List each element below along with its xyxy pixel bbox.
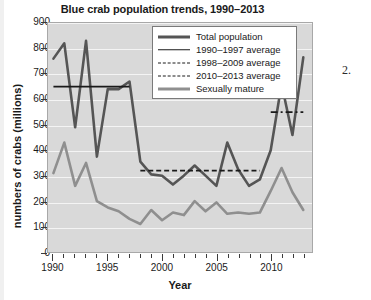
x-tick-mark xyxy=(271,254,272,261)
x-tick-mark xyxy=(206,254,207,258)
x-tick-label: 2005 xyxy=(197,262,237,273)
x-tick-mark xyxy=(151,254,152,258)
x-tick-mark xyxy=(228,254,229,258)
chart-title: Blue crab population trends, 1990–2013 xyxy=(0,3,325,15)
legend-label: Total population xyxy=(196,31,263,42)
x-axis-title: Year xyxy=(47,279,313,291)
x-tick-mark xyxy=(162,254,163,261)
legend-item[interactable]: 1998–2009 average xyxy=(157,56,292,69)
x-tick-mark xyxy=(293,254,294,258)
page-edge-strip xyxy=(0,0,4,300)
legend-item[interactable]: 2010–2013 average xyxy=(157,69,292,82)
x-tick-mark xyxy=(96,254,97,258)
x-tick-mark xyxy=(282,254,283,258)
legend-swatch-icon xyxy=(157,70,191,82)
legend-swatch-icon xyxy=(157,83,191,95)
legend-label: Sexually mature xyxy=(196,83,264,94)
chart-legend: Total population1990–1997 average1998–20… xyxy=(152,26,297,99)
x-tick-mark xyxy=(173,254,174,258)
x-tick-mark xyxy=(304,254,305,258)
x-tick-mark xyxy=(217,254,218,261)
x-tick-mark xyxy=(74,254,75,258)
x-tick-label: 1990 xyxy=(32,262,72,273)
x-tick-mark xyxy=(107,254,108,261)
legend-label: 1998–2009 average xyxy=(196,57,281,68)
x-tick-mark xyxy=(85,254,86,258)
legend-item[interactable]: 1990–1997 average xyxy=(157,43,292,56)
x-tick-label: 2010 xyxy=(251,262,291,273)
x-tick-mark xyxy=(140,254,141,258)
y-axis-title: numbers of crabs (millions) xyxy=(11,46,23,266)
series-line xyxy=(53,143,303,224)
x-tick-mark xyxy=(52,254,53,261)
margin-annotation: 2. xyxy=(342,63,351,78)
legend-item[interactable]: Total population xyxy=(157,30,292,43)
legend-swatch-icon xyxy=(157,31,191,43)
legend-label: 1990–1997 average xyxy=(196,44,281,55)
x-tick-mark xyxy=(250,254,251,258)
x-tick-mark xyxy=(260,254,261,258)
x-tick-label: 2000 xyxy=(142,262,182,273)
legend-label: 2010–2013 average xyxy=(196,70,281,81)
x-tick-mark xyxy=(184,254,185,258)
x-tick-label: 1995 xyxy=(87,262,127,273)
x-tick-mark xyxy=(118,254,119,258)
x-tick-mark xyxy=(195,254,196,258)
x-tick-mark xyxy=(239,254,240,258)
x-tick-mark xyxy=(129,254,130,258)
y-tick-mark xyxy=(41,253,47,254)
legend-swatch-icon xyxy=(157,57,191,69)
legend-item[interactable]: Sexually mature xyxy=(157,82,292,95)
chart-page: Blue crab population trends, 1990–2013 n… xyxy=(0,0,371,300)
legend-swatch-icon xyxy=(157,44,191,56)
x-tick-mark xyxy=(63,254,64,258)
